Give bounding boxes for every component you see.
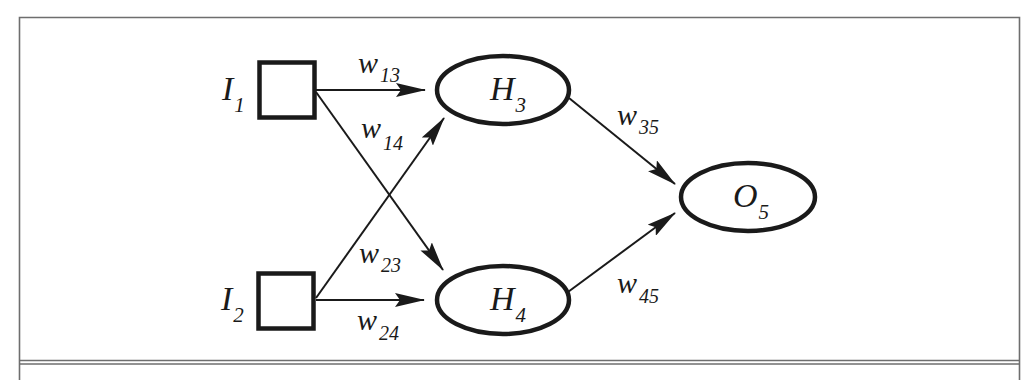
node-h4: H4 bbox=[437, 266, 569, 334]
edge-w23 bbox=[316, 118, 444, 298]
weight-label-w24: w24 bbox=[357, 303, 399, 344]
input-box-i1 bbox=[260, 63, 315, 118]
weight-label-w14: w14 bbox=[361, 111, 403, 154]
node-i2: I2 bbox=[220, 274, 314, 329]
weight-label-w23: w23 bbox=[359, 236, 401, 276]
node-o5: O5 bbox=[681, 163, 815, 231]
input-box-i2 bbox=[259, 274, 314, 329]
node-i1: I1 bbox=[221, 63, 315, 118]
weight-label-w35: w35 bbox=[617, 98, 659, 138]
neural-network-diagram: I1 I2 H3 H4 O5 w13 w14 w23 w24 w35 w45 bbox=[0, 0, 1036, 380]
weight-label-w45: w45 bbox=[617, 266, 659, 307]
weight-label-w13: w13 bbox=[358, 46, 400, 86]
node-label-i1: I1 bbox=[221, 70, 245, 117]
node-label-i2: I2 bbox=[220, 280, 244, 327]
node-h3: H3 bbox=[437, 56, 569, 124]
